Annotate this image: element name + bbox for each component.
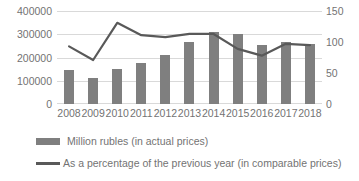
right-axis-tick: 50 xyxy=(326,68,338,79)
bar-swatch-icon xyxy=(36,138,60,145)
x-axis-tick: 2018 xyxy=(298,107,321,120)
plot-area xyxy=(57,11,322,104)
x-axis-labels: 2008200920102011201220132014201520162017… xyxy=(57,107,322,123)
legend-item-line: As a percentage of the previous year (in… xyxy=(0,152,359,174)
chart-legend: Million rubles (in actual prices) As a p… xyxy=(0,130,359,174)
percentage-line xyxy=(69,23,310,60)
right-axis-ticks: 150 100 50 0 xyxy=(326,11,359,104)
x-axis-tick: 2008 xyxy=(57,107,80,120)
x-axis-tick: 2014 xyxy=(202,107,225,120)
right-axis-tick: 0 xyxy=(326,99,332,110)
x-axis-tick: 2013 xyxy=(178,107,201,120)
left-axis-tick: 300000 xyxy=(17,29,52,40)
chart-container: 400000 300000 200000 100000 0 150 100 50… xyxy=(0,0,359,181)
x-axis-tick: 2016 xyxy=(250,107,273,120)
line-series xyxy=(57,11,322,104)
x-axis-tick: 2012 xyxy=(154,107,177,120)
x-axis-tick: 2009 xyxy=(81,107,104,120)
right-axis-tick: 150 xyxy=(326,6,344,17)
x-axis-tick: 2010 xyxy=(106,107,129,120)
left-axis-tick: 100000 xyxy=(17,76,52,87)
x-axis-tick: 2015 xyxy=(226,107,249,120)
left-axis-ticks: 400000 300000 200000 100000 0 xyxy=(0,11,52,104)
line-swatch-icon xyxy=(36,162,60,165)
x-axis-tick: 2017 xyxy=(274,107,297,120)
left-axis-tick: 400000 xyxy=(17,6,52,17)
legend-item-bars: Million rubles (in actual prices) xyxy=(0,130,359,152)
right-axis-tick: 100 xyxy=(326,37,344,48)
left-axis-tick: 200000 xyxy=(17,52,52,63)
legend-label: Million rubles (in actual prices) xyxy=(67,135,208,147)
legend-label: As a percentage of the previous year (in… xyxy=(63,157,341,169)
left-axis-tick: 0 xyxy=(46,99,52,110)
x-axis-tick: 2011 xyxy=(130,107,153,120)
